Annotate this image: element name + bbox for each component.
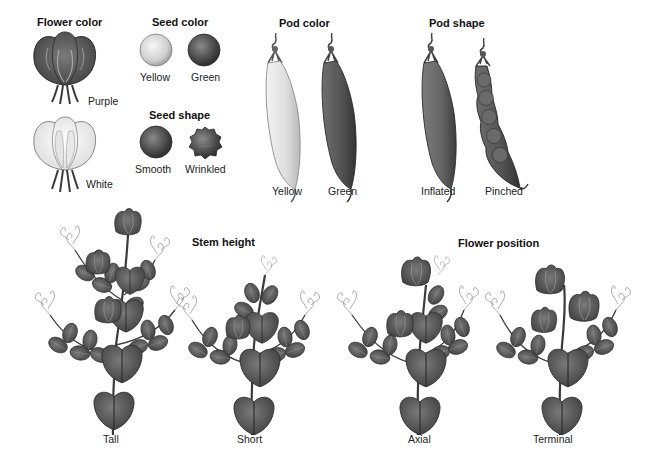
heading-seed-shape: Seed shape xyxy=(149,109,210,121)
heading-pod-shape: Pod shape xyxy=(429,17,485,29)
wrinkled-seed-illustration xyxy=(187,125,223,161)
pinched-pod-illustration xyxy=(472,38,542,198)
purple-flower-illustration xyxy=(30,30,100,105)
yellow-seed-illustration xyxy=(139,33,173,67)
inflated-pod-illustration xyxy=(418,33,478,203)
terminal-plant-illustration xyxy=(488,255,633,440)
heading-flower-position: Flower position xyxy=(458,237,539,249)
short-plant-illustration xyxy=(180,255,320,440)
label-tall: Tall xyxy=(103,433,119,445)
label-pod-green: Green xyxy=(328,185,357,197)
smooth-seed-illustration xyxy=(139,125,173,159)
label-seed-yellow: Yellow xyxy=(140,71,170,83)
label-axial: Axial xyxy=(408,433,431,445)
green-pod-illustration xyxy=(318,33,378,203)
label-short: Short xyxy=(237,433,262,445)
label-pinched: Pinched xyxy=(485,185,523,197)
label-purple: Purple xyxy=(88,95,118,107)
label-pod-yellow: Yellow xyxy=(272,185,302,197)
heading-seed-color: Seed color xyxy=(152,16,208,28)
green-seed-illustration xyxy=(187,33,221,67)
label-inflated: Inflated xyxy=(421,185,455,197)
heading-pod-color: Pod color xyxy=(279,17,330,29)
label-terminal: Terminal xyxy=(533,433,573,445)
axial-plant-illustration xyxy=(338,255,478,440)
label-wrinkled: Wrinkled xyxy=(185,163,226,175)
yellow-pod-illustration xyxy=(262,33,322,203)
label-seed-green: Green xyxy=(191,71,220,83)
label-white: White xyxy=(86,178,113,190)
heading-stem-height: Stem height xyxy=(192,236,255,248)
tall-plant-illustration xyxy=(30,205,180,440)
label-smooth: Smooth xyxy=(135,163,171,175)
heading-flower-color: Flower color xyxy=(37,16,102,28)
